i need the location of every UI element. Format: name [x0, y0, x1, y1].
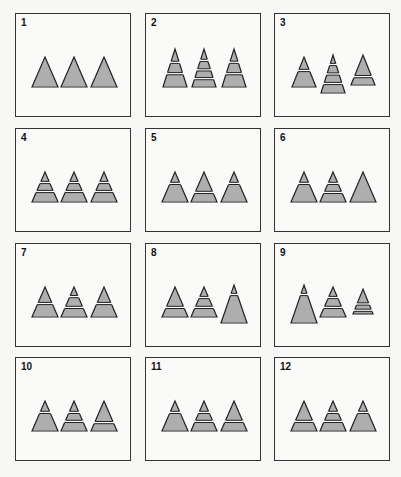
panel-number: 8: [151, 247, 157, 258]
striped-triangle-icon: [89, 170, 119, 204]
striped-triangle-icon: [219, 170, 249, 204]
panel-1: 1: [15, 13, 131, 117]
striped-triangle-icon: [160, 399, 190, 433]
panel-number: 4: [21, 132, 27, 143]
striped-triangle-icon: [160, 285, 190, 319]
striped-triangle-icon: [160, 170, 190, 204]
striped-triangle-icon: [189, 285, 219, 319]
striped-triangle-icon: [161, 47, 189, 89]
panel-number: 7: [21, 247, 27, 258]
panel-8: 8: [145, 243, 261, 347]
striped-triangle-icon: [89, 55, 119, 89]
striped-triangle-icon: [219, 283, 249, 325]
striped-triangle-icon: [59, 285, 89, 319]
striped-triangle-icon: [59, 399, 89, 433]
striped-triangle-icon: [190, 47, 218, 89]
striped-triangle-icon: [348, 170, 378, 204]
striped-triangle-icon: [59, 55, 89, 89]
striped-triangle-icon: [89, 399, 119, 433]
striped-triangle-icon: [348, 399, 378, 433]
striped-triangle-icon: [30, 399, 60, 433]
panel-number: 3: [280, 17, 286, 28]
striped-triangle-icon: [351, 287, 375, 316]
striped-triangle-icon: [289, 399, 319, 433]
panel-7: 7: [15, 243, 131, 347]
striped-triangle-icon: [349, 53, 377, 87]
striped-triangle-icon: [30, 55, 60, 89]
panel-9: 9: [274, 243, 390, 347]
striped-triangle-icon: [30, 285, 60, 319]
striped-triangle-icon: [318, 170, 348, 204]
panel-number: 1: [21, 17, 27, 28]
panel-4: 4: [15, 128, 131, 232]
panel-12: 12: [274, 357, 390, 461]
striped-triangle-icon: [189, 170, 219, 204]
striped-triangle-icon: [289, 170, 319, 204]
panel-2: 2: [145, 13, 261, 117]
striped-triangle-icon: [189, 399, 219, 433]
striped-triangle-icon: [319, 53, 347, 95]
striped-triangle-icon: [220, 47, 248, 89]
panel-number: 9: [280, 247, 286, 258]
striped-triangle-icon: [30, 170, 60, 204]
panel-10: 10: [15, 357, 131, 461]
striped-triangle-icon: [289, 283, 319, 325]
striped-triangle-icon: [318, 285, 348, 319]
panel-6: 6: [274, 128, 390, 232]
striped-triangle-icon: [318, 399, 348, 433]
panel-5: 5: [145, 128, 261, 232]
panel-11: 11: [145, 357, 261, 461]
panel-number: 10: [21, 361, 32, 372]
panel-number: 12: [280, 361, 291, 372]
panel-number: 11: [151, 361, 162, 372]
panel-number: 5: [151, 132, 157, 143]
striped-triangle-icon: [219, 399, 249, 433]
panel-number: 6: [280, 132, 286, 143]
panel-number: 2: [151, 17, 157, 28]
striped-triangle-icon: [290, 55, 318, 89]
panel-3: 3: [274, 13, 390, 117]
striped-triangle-icon: [89, 285, 119, 319]
striped-triangle-icon: [59, 170, 89, 204]
